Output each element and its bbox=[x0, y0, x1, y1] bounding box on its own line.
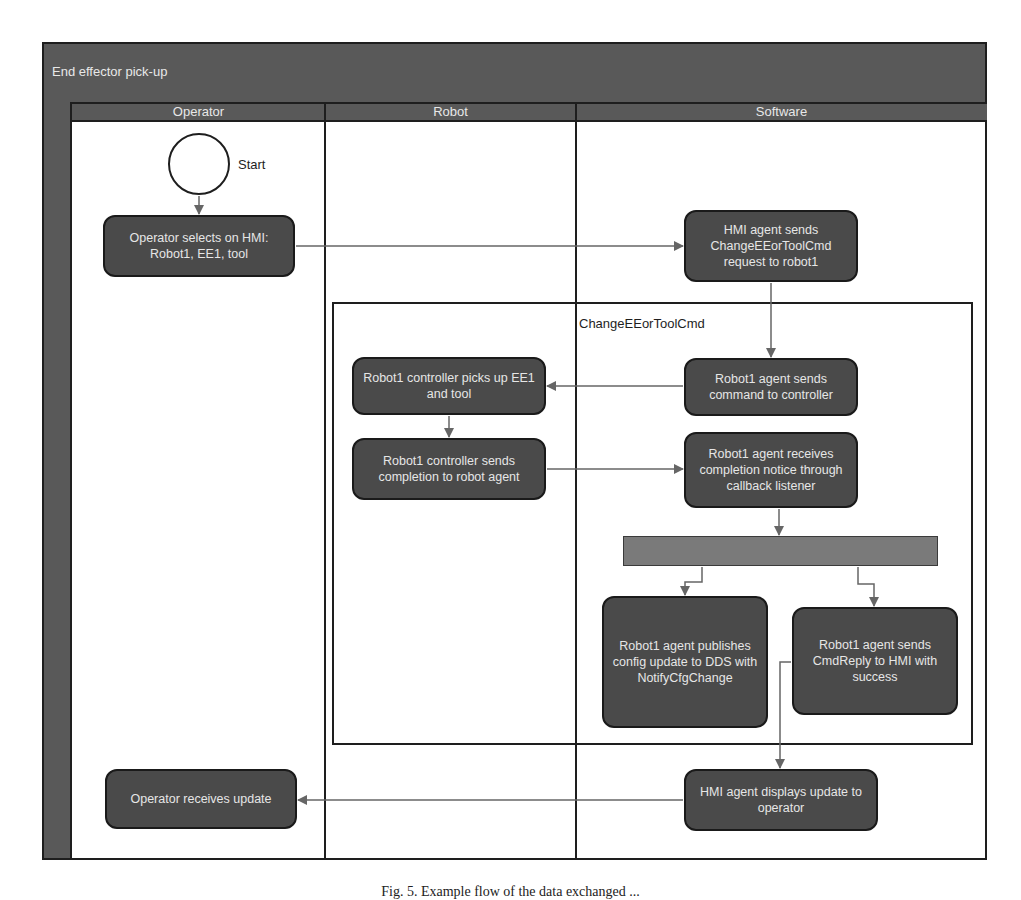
figure-caption: Fig. 5. Example flow of the data exchang… bbox=[0, 884, 1021, 900]
